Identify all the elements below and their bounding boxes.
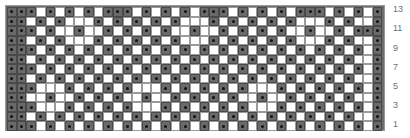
white-stitch-cell: [151, 64, 161, 74]
white-stitch-cell: [36, 26, 46, 36]
dark-stitch-cell: [373, 55, 383, 65]
dark-stitch-cell: [142, 7, 152, 17]
white-stitch-cell: [363, 112, 373, 122]
white-stitch-cell: [123, 36, 133, 46]
dark-stitch-cell: [219, 83, 229, 93]
dark-stitch-cell: [7, 26, 17, 36]
row-label: 3: [393, 100, 398, 110]
dark-stitch-cell: [190, 74, 200, 84]
white-stitch-cell: [84, 17, 94, 27]
dark-stitch-cell: [315, 7, 325, 17]
dark-stitch-cell: [123, 121, 133, 131]
dark-stitch-cell: [354, 121, 364, 131]
dark-stitch-cell: [26, 26, 36, 36]
dark-stitch-cell: [7, 121, 17, 131]
dark-stitch-cell: [26, 83, 36, 93]
white-stitch-cell: [123, 93, 133, 103]
white-stitch-cell: [277, 55, 287, 65]
white-stitch-cell: [142, 112, 152, 122]
dark-stitch-cell: [84, 45, 94, 55]
white-stitch-cell: [315, 74, 325, 84]
white-stitch-cell: [200, 36, 210, 46]
white-stitch-cell: [257, 17, 267, 27]
dark-stitch-cell: [209, 36, 219, 46]
dark-stitch-cell: [296, 83, 306, 93]
white-stitch-cell: [248, 45, 258, 55]
white-stitch-cell: [200, 26, 210, 36]
white-stitch-cell: [74, 83, 84, 93]
dark-stitch-cell: [334, 121, 344, 131]
dark-stitch-cell: [325, 36, 335, 46]
dark-stitch-cell: [171, 17, 181, 27]
white-stitch-cell: [84, 26, 94, 36]
white-stitch-cell: [344, 64, 354, 74]
dark-stitch-cell: [26, 7, 36, 17]
white-stitch-cell: [74, 64, 84, 74]
white-stitch-cell: [74, 45, 84, 55]
dark-stitch-cell: [7, 55, 17, 65]
white-stitch-cell: [238, 93, 248, 103]
white-stitch-cell: [267, 26, 277, 36]
dark-stitch-cell: [17, 45, 27, 55]
dark-stitch-cell: [267, 55, 277, 65]
white-stitch-cell: [325, 102, 335, 112]
dark-stitch-cell: [17, 7, 27, 17]
dark-stitch-cell: [315, 83, 325, 93]
white-stitch-cell: [257, 74, 267, 84]
white-stitch-cell: [26, 112, 36, 122]
dark-stitch-cell: [180, 7, 190, 17]
dark-stitch-cell: [123, 102, 133, 112]
white-stitch-cell: [190, 7, 200, 17]
white-stitch-cell: [305, 64, 315, 74]
dark-stitch-cell: [354, 7, 364, 17]
white-stitch-cell: [286, 102, 296, 112]
white-stitch-cell: [363, 17, 373, 27]
white-stitch-cell: [171, 45, 181, 55]
dark-stitch-cell: [17, 74, 27, 84]
white-stitch-cell: [257, 83, 267, 93]
dark-stitch-cell: [161, 102, 171, 112]
dark-stitch-cell: [209, 17, 219, 27]
white-stitch-cell: [151, 93, 161, 103]
white-stitch-cell: [354, 74, 364, 84]
white-stitch-cell: [363, 55, 373, 65]
white-stitch-cell: [354, 36, 364, 46]
dark-stitch-cell: [132, 36, 142, 46]
dark-stitch-cell: [161, 7, 171, 17]
dark-stitch-cell: [228, 74, 238, 84]
dark-stitch-cell: [200, 7, 210, 17]
dark-stitch-cell: [296, 121, 306, 131]
white-stitch-cell: [36, 7, 46, 17]
white-stitch-cell: [26, 17, 36, 27]
row-label: 9: [393, 43, 398, 53]
white-stitch-cell: [151, 121, 161, 131]
white-stitch-cell: [84, 112, 94, 122]
white-stitch-cell: [325, 26, 335, 36]
row-number-labels: 131197531: [393, 0, 410, 138]
dark-stitch-cell: [228, 17, 238, 27]
dark-stitch-cell: [161, 64, 171, 74]
dark-stitch-cell: [334, 83, 344, 93]
white-stitch-cell: [36, 121, 46, 131]
dark-stitch-cell: [248, 36, 258, 46]
white-stitch-cell: [132, 102, 142, 112]
white-stitch-cell: [190, 17, 200, 27]
white-stitch-cell: [74, 102, 84, 112]
white-stitch-cell: [228, 26, 238, 36]
white-stitch-cell: [325, 64, 335, 74]
white-stitch-cell: [354, 17, 364, 27]
white-stitch-cell: [248, 26, 258, 36]
dark-stitch-cell: [305, 93, 315, 103]
dark-stitch-cell: [65, 64, 75, 74]
white-stitch-cell: [46, 17, 56, 27]
dark-stitch-cell: [373, 26, 383, 36]
dark-stitch-cell: [7, 36, 17, 46]
dark-stitch-cell: [123, 64, 133, 74]
dark-stitch-cell: [267, 112, 277, 122]
white-stitch-cell: [219, 55, 229, 65]
dark-stitch-cell: [296, 102, 306, 112]
dark-stitch-cell: [132, 17, 142, 27]
white-stitch-cell: [55, 26, 65, 36]
white-stitch-cell: [46, 112, 56, 122]
white-stitch-cell: [325, 83, 335, 93]
